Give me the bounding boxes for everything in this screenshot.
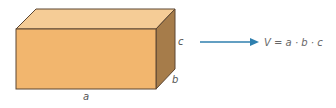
cuboid-diagram [0,0,336,108]
volume-formula: V = a · b · c [264,38,323,48]
cuboid-top-face [16,9,175,29]
label-a: a [83,92,89,102]
label-c: c [178,37,184,47]
label-b: b [172,75,178,85]
arrow-head-icon [250,38,259,46]
cuboid-front-face [16,29,156,89]
